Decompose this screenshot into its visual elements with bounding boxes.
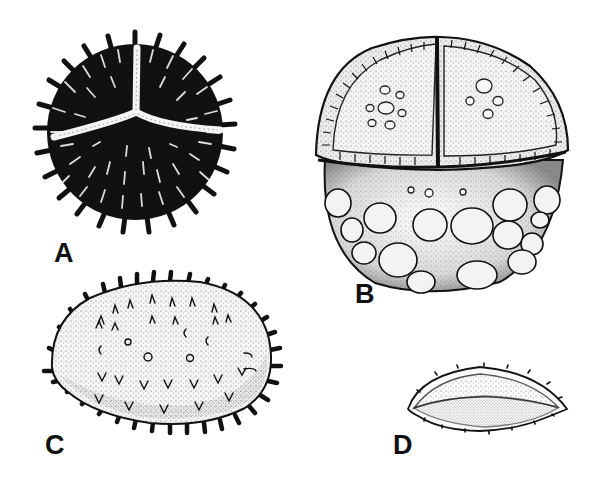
panel-a-spore xyxy=(35,32,235,232)
panel-b-grain xyxy=(316,37,568,293)
figure-illustrations xyxy=(0,0,596,487)
panel-label-d: D xyxy=(393,432,413,459)
panel-d-grain xyxy=(408,363,567,434)
panel-c-grain xyxy=(44,272,281,433)
panel-label-b: B xyxy=(355,281,375,308)
panel-label-c: C xyxy=(45,432,65,459)
panel-label-a: A xyxy=(54,240,74,267)
